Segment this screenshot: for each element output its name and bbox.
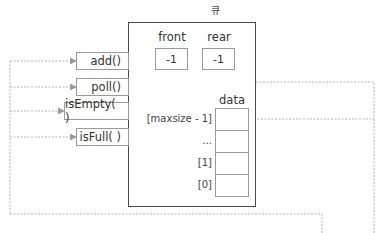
method-isfull: isFull( ): [76, 128, 129, 146]
method-isempty-label: isEmpty( ): [65, 97, 121, 125]
array-cell-maxsize: [215, 108, 249, 131]
method-poll: poll(): [76, 78, 129, 96]
array-index-0: [0]: [150, 179, 212, 190]
field-rear-label: rear: [199, 30, 239, 44]
array-index-1: [1]: [150, 157, 212, 168]
field-front-value: -1: [155, 48, 188, 70]
array-index-ellipsis: ...: [150, 135, 212, 146]
array-cell-1: [215, 152, 249, 175]
method-poll-label: poll(): [91, 80, 121, 94]
array-data-label: data: [212, 93, 252, 107]
method-add-label: add(): [90, 54, 121, 68]
field-rear-value: -1: [202, 48, 235, 70]
method-isempty: isEmpty( ): [64, 102, 129, 120]
method-add: add(): [76, 52, 129, 70]
queue-title: 큐: [200, 2, 230, 17]
method-isfull-label: isFull( ): [80, 130, 121, 144]
array-cell-ellipsis: [215, 130, 249, 153]
array-index-maxsize: [maxsize - 1]: [128, 113, 212, 124]
field-front-label: front: [152, 30, 192, 44]
array-cell-0: [215, 174, 249, 197]
